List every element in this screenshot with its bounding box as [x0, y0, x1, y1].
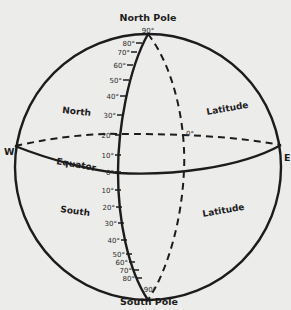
- equator-line: [15, 145, 281, 174]
- south-pole-label: South Pole: [120, 296, 178, 307]
- tick-90-north: 90°: [142, 27, 154, 35]
- tick-10-south: 10°: [102, 187, 114, 195]
- tick-60-south: 60°: [116, 259, 128, 267]
- tick-20-north: 20°: [102, 132, 114, 140]
- west-label: W: [4, 146, 15, 157]
- back-meridian: [148, 34, 184, 300]
- tick-70-south: 70°: [120, 267, 132, 275]
- tick-20-south: 20°: [103, 204, 115, 212]
- back-equator: [15, 134, 281, 146]
- tick-50-north: 50°: [110, 77, 122, 85]
- north-pole-label: North Pole: [120, 12, 177, 23]
- north-region-label: North: [62, 105, 92, 118]
- tick-10-north: 10°: [102, 152, 114, 160]
- tick-30-north: 30°: [104, 112, 116, 120]
- tick-80-south: 80°: [123, 275, 135, 283]
- latitude-upper-label: Latitude: [206, 100, 250, 117]
- tick-90-south: 90°: [144, 286, 156, 294]
- tick-80-north: 80°: [123, 40, 135, 48]
- tick-0-back: 0°: [186, 130, 194, 138]
- tick-40-north: 40°: [107, 93, 119, 101]
- south-region-label: South: [60, 204, 91, 218]
- tick-70-north: 70°: [118, 49, 130, 57]
- globe-latitude-diagram: North Pole South Pole W E Equator North …: [0, 0, 291, 310]
- sphere-outline: [15, 34, 281, 300]
- tick-30-south: 30°: [105, 220, 117, 228]
- tick-0-equator: 0°: [106, 169, 114, 177]
- east-label: E: [284, 152, 291, 163]
- latitude-lower-label: Latitude: [202, 202, 246, 219]
- tick-40-south: 40°: [108, 237, 120, 245]
- tick-50-south: 50°: [113, 251, 125, 259]
- tick-60-north: 60°: [114, 62, 126, 70]
- equator-label: Equator: [56, 156, 98, 173]
